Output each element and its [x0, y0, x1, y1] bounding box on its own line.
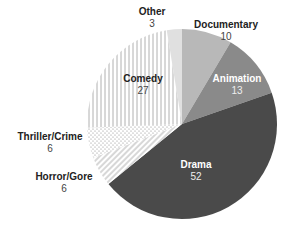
label-thriller-crime: Thriller/Crime 6 — [17, 131, 82, 155]
label-comedy: Comedy 27 — [123, 73, 162, 97]
label-horror-gore: Horror/Gore 6 — [35, 171, 92, 195]
label-other: Other 3 — [139, 6, 166, 30]
label-drama: Drama 52 — [180, 159, 211, 183]
pie-slices — [87, 29, 277, 219]
label-documentary: Documentary 10 — [194, 19, 258, 43]
label-animation: Animation 13 — [213, 73, 262, 97]
